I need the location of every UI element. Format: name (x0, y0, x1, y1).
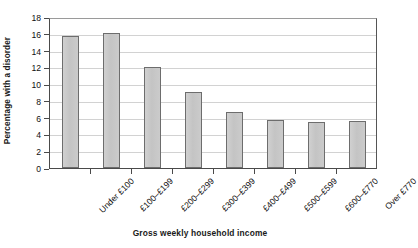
x-axis-tick (336, 169, 337, 174)
x-axis-tick (213, 169, 214, 174)
x-axis-tick-label: £200–£299 (178, 176, 215, 213)
gridline (50, 119, 376, 120)
x-axis-tick-label: Over £770 (382, 176, 417, 211)
bar (62, 36, 79, 168)
bar (226, 112, 243, 168)
x-axis-tick (172, 169, 173, 174)
y-axis-tick-label: 14 (0, 47, 41, 57)
x-axis-tick-label: £600–£770 (342, 176, 379, 213)
bar (267, 120, 284, 168)
y-axis-tick-label: 16 (0, 30, 41, 40)
bar (103, 33, 120, 168)
bar (308, 122, 325, 168)
x-axis-tick (295, 169, 296, 174)
gridline (50, 152, 376, 153)
plot-area (49, 18, 377, 169)
gridline (50, 102, 376, 103)
gridline (50, 18, 376, 19)
y-axis-tick-label: 0 (0, 164, 41, 174)
x-axis-tick-label: £300–£399 (219, 176, 256, 213)
y-axis-tick-label: 10 (0, 80, 41, 90)
x-axis-tick-label: £400–£499 (260, 176, 297, 213)
x-axis-tick-label: £500–£599 (301, 176, 338, 213)
gridline (50, 52, 376, 53)
x-axis-title: Gross weekly household income (0, 228, 400, 238)
y-axis-tick-label: 6 (0, 114, 41, 124)
gridline (50, 85, 376, 86)
gridline (50, 68, 376, 69)
x-axis-tick-label: Under £100 (97, 176, 136, 215)
y-axis-tick-label: 18 (0, 13, 41, 23)
gridline (50, 35, 376, 36)
y-axis-tick-label: 8 (0, 97, 41, 107)
bar (144, 67, 161, 168)
x-axis-tick (90, 169, 91, 174)
bar (349, 121, 366, 168)
gridline (50, 135, 376, 136)
x-axis-tick (254, 169, 255, 174)
y-axis-tick-label: 4 (0, 130, 41, 140)
y-axis-tick-label: 2 (0, 147, 41, 157)
y-axis-tick-label: 12 (0, 63, 41, 73)
x-axis-tick (131, 169, 132, 174)
x-axis-tick-label: £100–£199 (137, 176, 174, 213)
bar (185, 92, 202, 168)
